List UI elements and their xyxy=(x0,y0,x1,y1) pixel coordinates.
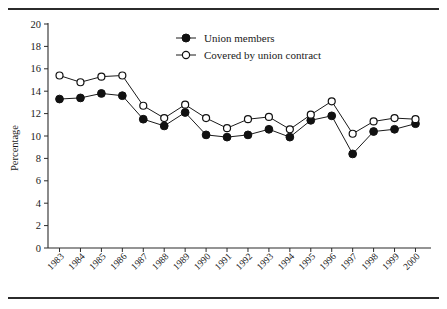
y-axis-tick-label: 0 xyxy=(36,243,41,254)
x-axis-tick-label: 1983 xyxy=(45,251,66,272)
y-axis-tick-label: 10 xyxy=(31,131,42,142)
data-point-0-1986 xyxy=(118,92,126,100)
y-axis-tick-label: 18 xyxy=(31,41,42,52)
x-axis-tick-label: 1997 xyxy=(339,251,360,272)
data-point-1-1992 xyxy=(244,116,251,123)
data-point-0-1989 xyxy=(181,109,189,117)
data-point-1-1995 xyxy=(307,111,314,118)
data-point-0-1993 xyxy=(265,125,273,133)
x-axis-tick-label: 1996 xyxy=(318,251,339,272)
x-axis-tick-label: 1991 xyxy=(213,251,234,272)
data-point-0-1999 xyxy=(391,125,399,133)
data-point-1-1987 xyxy=(140,102,147,109)
figure-container: 02468101214161820 1983198419851986198719… xyxy=(0,0,447,309)
chart-legend: Union membersCovered by union contract xyxy=(176,32,321,61)
data-point-1-1988 xyxy=(161,115,168,122)
y-axis-tick-label: 12 xyxy=(31,108,42,119)
legend-marker-1 xyxy=(182,51,189,58)
data-point-1-1996 xyxy=(328,98,335,105)
x-axis-tick-label: 1999 xyxy=(380,251,401,272)
data-point-0-1990 xyxy=(202,131,210,139)
legend-label-1: Covered by union contract xyxy=(204,49,321,61)
data-point-0-1996 xyxy=(328,112,336,120)
x-axis: 1983198419851986198719881989199019911992… xyxy=(45,248,431,272)
x-axis-tick-label: 1995 xyxy=(297,251,318,272)
x-axis-tick-label: 1986 xyxy=(108,251,129,272)
x-axis-tick-label: 2000 xyxy=(401,251,422,272)
data-point-1-1983 xyxy=(56,72,63,79)
line-chart: 02468101214161820 1983198419851986198719… xyxy=(0,0,447,309)
x-axis-tick-label: 1984 xyxy=(66,251,87,272)
data-point-0-1992 xyxy=(244,131,252,139)
y-axis-tick-label: 16 xyxy=(31,63,42,74)
data-point-0-1994 xyxy=(286,133,294,141)
data-point-0-1985 xyxy=(97,90,105,98)
legend-marker-0 xyxy=(182,34,190,42)
x-axis-tick-label: 1998 xyxy=(360,251,381,272)
data-point-1-1997 xyxy=(349,130,356,137)
data-point-0-1984 xyxy=(77,94,85,102)
data-point-0-1987 xyxy=(139,115,147,123)
data-point-0-1998 xyxy=(370,128,378,136)
data-point-1-1984 xyxy=(77,79,84,86)
y-axis: 02468101214161820 xyxy=(31,19,49,254)
x-axis-tick-label: 1992 xyxy=(234,251,255,272)
data-point-1-1998 xyxy=(370,118,377,125)
y-axis-tick-label: 6 xyxy=(36,175,41,186)
y-axis-title: Percentage xyxy=(9,125,20,171)
x-axis-tick-label: 1989 xyxy=(171,251,192,272)
x-axis-tick-label: 1988 xyxy=(150,251,171,272)
data-point-1-1985 xyxy=(98,73,105,80)
data-point-1-2000 xyxy=(412,116,419,123)
series-line-1 xyxy=(60,76,416,134)
x-axis-tick-label: 1990 xyxy=(192,251,213,272)
data-point-0-1997 xyxy=(349,150,357,158)
data-point-1-1986 xyxy=(119,72,126,79)
x-axis-tick-label: 1994 xyxy=(276,251,297,272)
y-axis-tick-label: 2 xyxy=(36,220,41,231)
data-point-0-1991 xyxy=(223,133,231,141)
legend-label-0: Union members xyxy=(204,32,275,44)
x-axis-tick-label: 1987 xyxy=(129,251,150,272)
data-point-1-1989 xyxy=(182,101,189,108)
x-axis-tick-label: 1985 xyxy=(87,251,108,272)
y-axis-tick-label: 14 xyxy=(31,86,42,97)
x-axis-tick-label: 1993 xyxy=(255,251,276,272)
data-point-0-1988 xyxy=(160,122,168,130)
chart-plot-area: 02468101214161820 1983198419851986198719… xyxy=(0,0,447,309)
data-point-1-1993 xyxy=(265,113,272,120)
y-axis-tick-label: 4 xyxy=(36,198,42,209)
data-series-group xyxy=(56,72,420,158)
data-point-1-1991 xyxy=(224,125,231,132)
y-axis-tick-label: 8 xyxy=(36,153,41,164)
data-point-0-1983 xyxy=(56,95,64,103)
y-axis-tick-label: 20 xyxy=(31,19,42,30)
data-point-1-1990 xyxy=(203,115,210,122)
data-point-1-1999 xyxy=(391,115,398,122)
data-point-1-1994 xyxy=(286,126,293,133)
